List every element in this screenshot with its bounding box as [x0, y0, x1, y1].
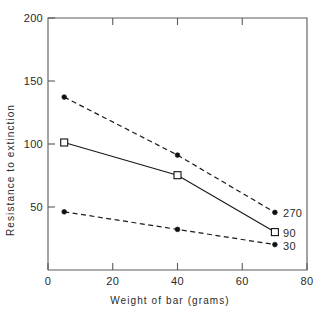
data-point-30-40 — [175, 227, 180, 232]
data-point-30-70 — [273, 242, 278, 247]
y-tick-label-150: 150 — [24, 75, 43, 87]
data-point-90-70 — [271, 229, 278, 236]
x-tick-label-40: 40 — [171, 275, 184, 287]
data-point-270-5 — [62, 95, 67, 100]
series-label-270: 270 — [283, 207, 302, 219]
data-point-270-40 — [175, 153, 180, 158]
series-label-30: 30 — [283, 240, 296, 252]
plot-frame — [48, 18, 307, 270]
series-line-270 — [64, 97, 275, 212]
series-line-90 — [64, 143, 275, 233]
y-axis-title: Resistance to extinction — [5, 104, 16, 236]
chart-figure: 200 150 100 50 0 20 40 60 80 Weight of b… — [0, 0, 322, 314]
x-tick-label-0: 0 — [45, 275, 51, 287]
line-chart: 200 150 100 50 0 20 40 60 80 Weight of b… — [0, 0, 322, 314]
y-tick-label-200: 200 — [24, 12, 43, 24]
series-label-90: 90 — [283, 227, 296, 239]
x-tick-label-60: 60 — [236, 275, 249, 287]
x-tick-label-80: 80 — [301, 275, 314, 287]
x-tick-label-20: 20 — [106, 275, 119, 287]
x-axis-title: Weight of bar (grams) — [110, 295, 230, 306]
data-point-270-70 — [273, 210, 278, 215]
data-point-90-40 — [174, 172, 181, 179]
data-point-90-5 — [61, 139, 68, 146]
y-tick-label-100: 100 — [24, 138, 43, 150]
series-line-30 — [64, 212, 275, 245]
y-tick-label-50: 50 — [30, 201, 43, 213]
data-point-30-5 — [62, 209, 67, 214]
